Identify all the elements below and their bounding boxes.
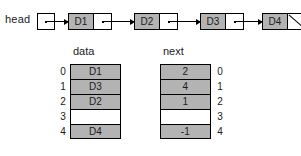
linked-list-diagram: head D1 D2 D3 D4 (0, 0, 301, 44)
list-node-2-data: D2 (134, 13, 160, 30)
list-node-4: D4 (262, 13, 301, 30)
next-cell-2: 1 (160, 94, 211, 109)
next-cell-0: 2 (160, 64, 211, 79)
list-node-1-data: D1 (68, 13, 94, 30)
next-cell-3 (160, 109, 211, 124)
list-node-3-data: D3 (200, 13, 226, 30)
head-label: head (5, 13, 30, 25)
next-cell-1: 4 (160, 79, 211, 94)
data-index-0: 0 (57, 64, 69, 79)
data-cell-3 (70, 109, 121, 124)
data-column-cells: D1 D3 D2 D4 (70, 64, 121, 139)
data-column-header: data (73, 45, 94, 57)
data-index-1: 1 (57, 79, 69, 94)
data-index-2: 2 (57, 94, 69, 109)
list-node-4-data: D4 (262, 13, 288, 30)
next-column-cells: 2 4 1 -1 (160, 64, 211, 139)
null-slash-icon (288, 14, 301, 29)
data-cell-4: D4 (70, 124, 121, 139)
next-index-0: 0 (214, 64, 226, 79)
next-column-header: next (163, 45, 184, 57)
next-index-2: 2 (214, 94, 226, 109)
arrow-node-2-to-node-3 (169, 21, 200, 22)
data-index-column: 0 1 2 3 4 (57, 64, 69, 139)
data-cell-0: D1 (70, 64, 121, 79)
data-cell-1: D3 (70, 79, 121, 94)
list-node-4-next (287, 13, 301, 30)
array-representation: data next 0 1 2 3 4 D1 D3 D2 D4 2 4 1 -1… (0, 44, 301, 156)
next-index-4: 4 (214, 124, 226, 139)
next-cell-4: -1 (160, 124, 211, 139)
data-index-3: 3 (57, 109, 69, 124)
next-index-1: 1 (214, 79, 226, 94)
next-index-3: 3 (214, 109, 226, 124)
data-index-4: 4 (57, 124, 69, 139)
next-index-column: 0 1 2 3 4 (214, 64, 226, 139)
data-cell-2: D2 (70, 94, 121, 109)
arrow-node-3-to-node-4 (235, 21, 262, 22)
arrow-node-1-to-node-2 (103, 21, 134, 22)
arrow-head-to-node-1 (46, 21, 68, 22)
